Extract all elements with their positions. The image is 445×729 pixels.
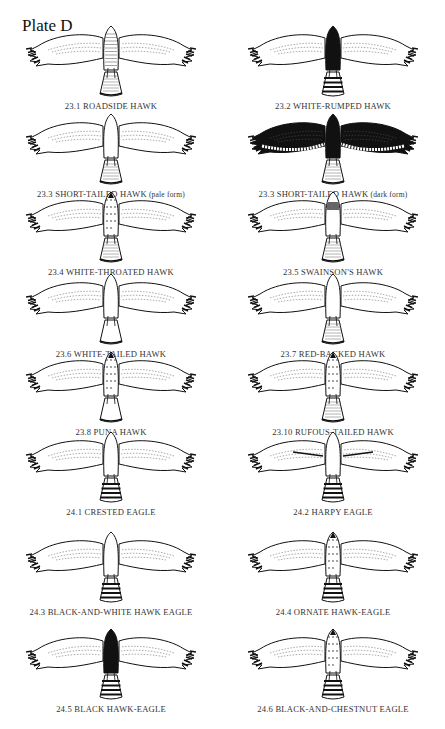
bird-figure: 24.3 BLACK-AND-WHITE HAWK EAGLE — [0, 528, 222, 617]
bird-figure: 23.7 RED-BACKED HAWK — [222, 270, 444, 359]
bird-figure: 23.10 RUFOUS-TAILED HAWK — [222, 348, 444, 437]
bird-figure: 23.6 WHITE-TAILED HAWK — [0, 270, 222, 359]
bird-figure: 23.5 SWAINSON'S HAWK — [222, 188, 444, 277]
bird-label: 24.1 CRESTED EAGLE — [66, 507, 155, 517]
bird-silhouette-icon — [248, 625, 418, 703]
bird-silhouette-icon — [248, 348, 418, 426]
bird-silhouette-icon — [248, 528, 418, 606]
bird-label: 24.6 BLACK-AND-CHESTNUT EAGLE — [257, 704, 409, 714]
bird-figure: 23.1 ROADSIDE HAWK — [0, 22, 222, 111]
bird-silhouette-icon — [248, 188, 418, 266]
bird-silhouette-icon — [26, 22, 196, 100]
bird-silhouette-icon — [26, 348, 196, 426]
bird-silhouette-icon — [248, 110, 418, 188]
bird-silhouette-icon — [248, 22, 418, 100]
bird-figure: 23.4 WHITE-THROATED HAWK — [0, 188, 222, 277]
bird-silhouette-icon — [26, 270, 196, 348]
bird-figure: 23.3 SHORT-TAILED HAWK (dark form) — [222, 110, 444, 199]
bird-caption: 24.3 BLACK-AND-WHITE HAWK EAGLE — [0, 607, 222, 617]
bird-caption: 24.2 HARPY EAGLE — [222, 507, 444, 517]
bird-label: 24.4 ORNATE HAWK-EAGLE — [276, 607, 391, 617]
bird-silhouette-icon — [26, 625, 196, 703]
bird-silhouette-icon — [26, 428, 196, 506]
bird-silhouette-icon — [248, 428, 418, 506]
bird-caption: 24.1 CRESTED EAGLE — [0, 507, 222, 517]
bird-figure: 24.6 BLACK-AND-CHESTNUT EAGLE — [222, 625, 444, 714]
bird-figure: 23.8 PUNA HAWK — [0, 348, 222, 437]
bird-figure: 23.3 SHORT-TAILED HAWK (pale form) — [0, 110, 222, 199]
bird-label: 24.2 HARPY EAGLE — [293, 507, 373, 517]
bird-label: 24.5 BLACK HAWK-EAGLE — [56, 704, 166, 714]
bird-figure: 24.2 HARPY EAGLE — [222, 428, 444, 517]
bird-figure: 23.2 WHITE-RUMPED HAWK — [222, 22, 444, 111]
bird-caption: 24.4 ORNATE HAWK-EAGLE — [222, 607, 444, 617]
bird-figure: 24.4 ORNATE HAWK-EAGLE — [222, 528, 444, 617]
bird-caption: 24.5 BLACK HAWK-EAGLE — [0, 704, 222, 714]
bird-silhouette-icon — [26, 188, 196, 266]
bird-silhouette-icon — [248, 270, 418, 348]
bird-label: 24.3 BLACK-AND-WHITE HAWK EAGLE — [29, 607, 192, 617]
bird-silhouette-icon — [26, 110, 196, 188]
bird-caption: 24.6 BLACK-AND-CHESTNUT EAGLE — [222, 704, 444, 714]
bird-silhouette-icon — [26, 528, 196, 606]
bird-figure: 24.1 CRESTED EAGLE — [0, 428, 222, 517]
bird-figure: 24.5 BLACK HAWK-EAGLE — [0, 625, 222, 714]
